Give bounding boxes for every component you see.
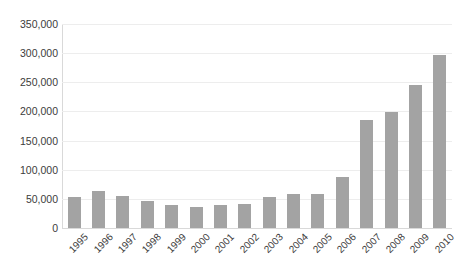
bar-slot — [190, 24, 203, 228]
bar[interactable] — [190, 207, 203, 228]
bar[interactable] — [165, 205, 178, 228]
y-axis-tick-label: 200,000 — [2, 106, 58, 117]
bar[interactable] — [238, 204, 251, 228]
bar-slot — [409, 24, 422, 228]
x-axis-tick-label: 2007 — [360, 232, 383, 255]
bar-slot — [433, 24, 446, 228]
x-axis-tick-label: 2006 — [336, 232, 359, 255]
bar[interactable] — [68, 197, 81, 228]
bar-slot — [263, 24, 276, 228]
x-axis-tick-label: 2002 — [238, 232, 261, 255]
x-axis-tick-label: 1999 — [165, 232, 188, 255]
bar-slot — [92, 24, 105, 228]
bar-slot — [68, 24, 81, 228]
y-axis-tick-label: 0 — [2, 223, 58, 234]
y-axis-tick-label: 50,000 — [2, 194, 58, 205]
bar-slot — [214, 24, 227, 228]
x-axis-tick-label: 2010 — [433, 232, 456, 255]
x-axis-tick-label: 2009 — [409, 232, 432, 255]
bar[interactable] — [336, 177, 349, 228]
y-axis-tick-label: 150,000 — [2, 135, 58, 146]
bar[interactable] — [433, 55, 446, 228]
bar-slot — [311, 24, 324, 228]
plot-area — [62, 24, 452, 228]
x-axis-tick-label: 2005 — [311, 232, 334, 255]
x-axis-tick-label: 1995 — [67, 232, 90, 255]
bar-series — [62, 24, 452, 228]
y-axis-tick-label: 100,000 — [2, 164, 58, 175]
x-axis-tick-label: 2004 — [287, 232, 310, 255]
y-axis-tick-label: 350,000 — [2, 19, 58, 30]
bar[interactable] — [116, 196, 129, 228]
bar[interactable] — [360, 120, 373, 228]
x-axis-tick-labels: 1995199619971998199920002001200220032004… — [62, 230, 452, 275]
x-axis-line — [62, 228, 452, 229]
y-axis-tick-labels: 050,000100,000150,000200,000250,000300,0… — [0, 0, 58, 275]
bar[interactable] — [385, 112, 398, 228]
x-axis-tick-label: 1998 — [141, 232, 164, 255]
y-axis-tick-label: 250,000 — [2, 77, 58, 88]
x-axis-tick-label: 2000 — [189, 232, 212, 255]
bar-slot — [336, 24, 349, 228]
bar[interactable] — [311, 194, 324, 228]
bar-slot — [360, 24, 373, 228]
x-axis-tick-label: 1997 — [116, 232, 139, 255]
bar[interactable] — [287, 194, 300, 228]
bar[interactable] — [263, 197, 276, 228]
bar-slot — [141, 24, 154, 228]
bar[interactable] — [92, 191, 105, 228]
x-axis-tick-label: 2008 — [384, 232, 407, 255]
x-axis-tick-label: 2003 — [262, 232, 285, 255]
bar-slot — [287, 24, 300, 228]
bar-chart: 050,000100,000150,000200,000250,000300,0… — [0, 0, 460, 275]
x-axis-tick-label: 2001 — [214, 232, 237, 255]
bar[interactable] — [141, 201, 154, 228]
bar-slot — [116, 24, 129, 228]
y-axis-tick-label: 300,000 — [2, 48, 58, 59]
bar-slot — [165, 24, 178, 228]
bar[interactable] — [409, 85, 422, 228]
x-axis-tick-label: 1996 — [92, 232, 115, 255]
bar-slot — [238, 24, 251, 228]
bar[interactable] — [214, 205, 227, 228]
bar-slot — [385, 24, 398, 228]
